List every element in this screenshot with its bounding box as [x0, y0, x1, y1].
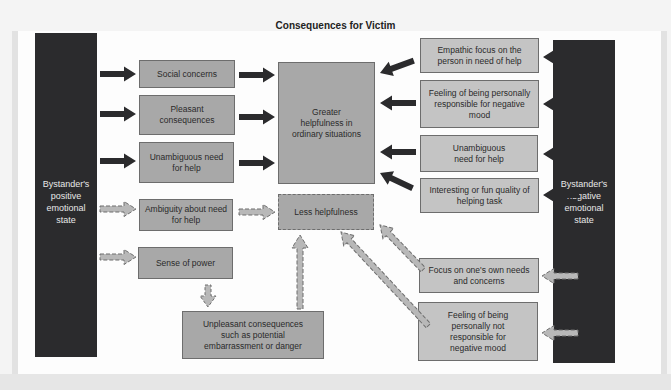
outcome-label: Less helpfulness	[294, 207, 357, 218]
right-factor-interesting-task: Interesting or fun quality of helping ta…	[420, 178, 539, 213]
left-factor-pleasant-consequences: Pleasant consequences	[139, 95, 235, 135]
left-factor-label: Social concerns	[157, 69, 217, 80]
diagram-title: Consequences for Victim	[0, 20, 671, 31]
negative-emotional-state-label: Bystander's negative emotional state	[553, 178, 615, 226]
right-factor-label: Focus on one's own needs and concerns	[424, 265, 534, 287]
outcome-greater-helpfulness: Greater helpfulness in ordinary situatio…	[278, 62, 375, 184]
right-factor-empathic-focus: Empathic focus on the person in need of …	[420, 38, 539, 73]
right-factor-label: Interesting or fun quality of helping ta…	[425, 185, 534, 207]
left-factor-unambiguous-need: Unambiguous need for help	[139, 142, 234, 183]
right-factor-focus-own-needs: Focus on one's own needs and concerns	[419, 258, 539, 293]
left-factor-label: Unambiguous need for help	[144, 152, 229, 174]
left-factor-label: Ambiguity about need for help	[144, 204, 228, 226]
outcome-less-helpfulness: Less helpfulness	[278, 194, 374, 230]
outcome-label: Greater helpfulness in ordinary situatio…	[291, 107, 362, 140]
negative-emotional-state-bar: Bystander's negative emotional state	[553, 40, 615, 363]
left-factor-sense-of-power: Sense of power	[138, 247, 233, 279]
unpleasant-consequences-box: Unpleasant consequences such as potentia…	[182, 311, 324, 359]
right-factor-not-responsible: Feeling of being personally not responsi…	[418, 302, 538, 361]
right-factor-label: Unambiguous need for help	[443, 143, 515, 165]
positive-emotional-state-label: Bystander's positive emotional state	[35, 178, 97, 226]
right-factor-personally-responsible: Feeling of being personally responsible …	[420, 80, 539, 128]
right-factor-label: Empathic focus on the person in need of …	[425, 45, 534, 67]
right-factor-label: Feeling of being personally responsible …	[425, 88, 534, 121]
left-factor-label: Pleasant consequences	[144, 104, 230, 126]
left-factor-ambiguity: Ambiguity about need for help	[139, 199, 233, 231]
left-factor-label: Sense of power	[156, 258, 215, 269]
unpleasant-label: Unpleasant consequences such as potentia…	[193, 319, 313, 352]
left-factor-social-concerns: Social concerns	[139, 60, 235, 88]
positive-emotional-state-bar: Bystander's positive emotional state	[35, 33, 97, 357]
right-factor-unambiguous-need: Unambiguous need for help	[420, 135, 538, 172]
right-factor-label: Feeling of being personally not responsi…	[437, 310, 519, 354]
footer-strip	[0, 374, 671, 390]
